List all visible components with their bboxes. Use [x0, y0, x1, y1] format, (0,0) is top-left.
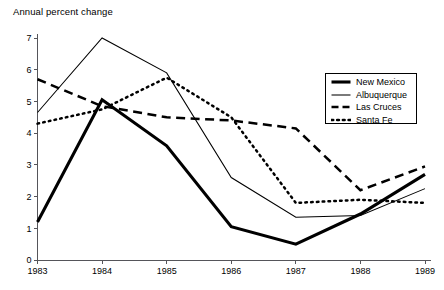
x-axis-tick-label: 1988	[350, 266, 370, 276]
legend-item-label: Santa Fe	[356, 115, 393, 125]
legend-item[interactable]: New Mexico	[326, 77, 416, 89]
legend-item-label: Las Cruces	[356, 102, 402, 112]
plot-area: 01234567 1983198419851986198719881989	[0, 0, 444, 290]
y-axis-tick-label: 6	[26, 65, 31, 75]
legend-swatch-dashed-icon	[331, 102, 351, 112]
legend: New MexicoAlbuquerqueLas CrucesSanta Fe	[325, 73, 417, 124]
x-axis: 1983198419851986198719881989	[27, 260, 435, 276]
y-axis-tick-label: 4	[26, 128, 31, 138]
legend-swatch-thin-solid-icon	[331, 90, 351, 100]
legend-item-label: New Mexico	[356, 77, 405, 87]
legend-item-label: Albuquerque	[356, 90, 407, 100]
line-chart: Annual percent change 01234567 198319841…	[0, 0, 444, 290]
x-axis-tick-label: 1983	[27, 266, 47, 276]
y-axis-tick-label: 5	[26, 97, 31, 107]
y-axis-tick-label: 1	[26, 224, 31, 234]
x-axis-tick-label: 1986	[221, 266, 241, 276]
y-axis-tick-label: 2	[26, 192, 31, 202]
x-axis-tick-label: 1984	[92, 266, 112, 276]
series-line-albuquerque	[38, 38, 426, 217]
x-axis-tick-label: 1989	[415, 266, 435, 276]
legend-item[interactable]: Albuquerque	[326, 89, 416, 101]
legend-swatch-dotted-icon	[331, 115, 351, 125]
legend-item[interactable]: Las Cruces	[326, 102, 416, 114]
legend-item[interactable]: Santa Fe	[326, 114, 416, 126]
y-axis-tick-label: 3	[26, 160, 31, 170]
y-axis: 01234567	[26, 33, 37, 265]
y-axis-tick-label: 0	[26, 255, 31, 265]
y-axis-tick-label: 7	[26, 33, 31, 43]
series-lines	[38, 38, 426, 244]
x-axis-tick-label: 1985	[157, 266, 177, 276]
legend-swatch-thick-solid-icon	[331, 77, 351, 87]
x-axis-tick-label: 1987	[286, 266, 306, 276]
